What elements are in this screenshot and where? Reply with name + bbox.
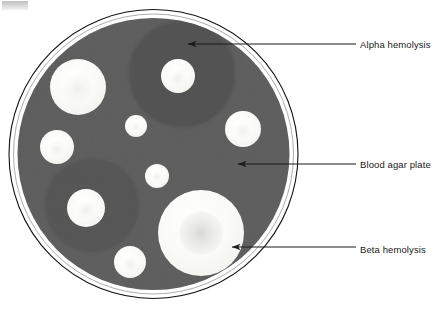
colony-bottom-left: [114, 246, 146, 278]
colony-center-small: [125, 115, 147, 137]
label-blood-agar-plate: Blood agar plate: [360, 159, 431, 170]
label-beta-hemolysis: Beta hemolysis: [360, 244, 426, 255]
blood-agar-plate-figure: Alpha hemolysis Blood agar plate Beta he…: [0, 0, 439, 311]
colony-lower-left: [67, 189, 105, 227]
colony-center-low: [145, 164, 169, 188]
colony-left-mid: [40, 130, 74, 164]
colony-beta-large: [158, 190, 244, 276]
colony-upper-left-large: [50, 59, 106, 115]
label-alpha-hemolysis: Alpha hemolysis: [360, 39, 431, 50]
colony-right-mid: [225, 111, 261, 147]
colony-top-center: [161, 59, 195, 93]
